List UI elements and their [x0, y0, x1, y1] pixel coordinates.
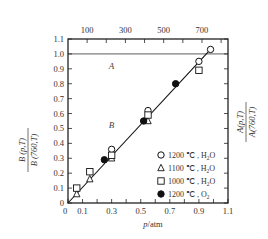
- y-tick-label: 1.1: [53, 34, 64, 44]
- legend-marker-open-square: [158, 178, 164, 184]
- y-tick-label: 0.9: [53, 64, 64, 74]
- legend: 1200 ℃ , H2O1100 ℃ , H2O1000 ℃ , H2O1200…: [158, 151, 216, 200]
- x-tick-label: 0.1: [77, 206, 88, 216]
- top-tick-label: 100: [81, 25, 94, 35]
- x-tick-label: 0.5: [135, 206, 146, 216]
- y-tick-label: 0.6: [53, 109, 64, 119]
- data-point-filled-circle: [140, 118, 146, 124]
- y-tick-label: 0.3: [53, 153, 64, 163]
- y-tick-label: 0.4: [53, 138, 64, 148]
- svg-text:B (760,T): B (760,T): [29, 134, 39, 167]
- x-tick-label: 0.7: [165, 206, 176, 216]
- region-label-a: A: [108, 61, 115, 71]
- data-point-open-square: [74, 185, 80, 191]
- data-point-open-circle: [207, 46, 213, 52]
- legend-entry: 1100 ℃ , H2O: [168, 164, 215, 174]
- top-tick-label: 300: [119, 25, 132, 35]
- data-point-filled-circle: [172, 81, 178, 87]
- y-tick-label: 1.0: [53, 49, 64, 59]
- legend-entry: 1000 ℃ , H2O: [168, 177, 216, 187]
- y-tick-label: 0.5: [53, 123, 64, 133]
- legend-marker-open-triangle: [158, 164, 164, 170]
- data-point-open-square: [145, 112, 151, 118]
- x-tick-label: 1.1: [223, 206, 234, 216]
- svg-text:A(p,T): A(p,T): [235, 111, 245, 134]
- x-tick-label: 0.9: [194, 206, 205, 216]
- chart-canvas: 00.10.20.30.40.50.60.70.80.91.01.100.10.…: [0, 0, 268, 239]
- top-tick-label: 700: [196, 25, 209, 35]
- legend-entry: 1200 ℃ , H2O: [168, 151, 216, 161]
- legend-entry: 1200 ℃ , O2: [168, 190, 210, 200]
- y-tick-label: 0.7: [53, 94, 64, 104]
- data-point-open-circle: [108, 146, 114, 152]
- legend-marker-filled-circle: [158, 191, 164, 197]
- x-axis-label: p/atm: [142, 219, 163, 229]
- y-tick-label: 0.2: [53, 168, 64, 178]
- x-tick-label: 0.3: [106, 206, 117, 216]
- left-y-axis-label: B (p,T)B (760,T): [17, 128, 39, 172]
- data-point-filled-circle: [101, 157, 107, 163]
- top-tick-label: 500: [157, 25, 170, 35]
- svg-text:A(760,T): A(760,T): [247, 107, 257, 139]
- legend-marker-open-circle: [158, 152, 164, 158]
- data-point-open-square: [87, 168, 93, 174]
- svg-text:B (p,T): B (p,T): [17, 138, 27, 162]
- data-point-open-square: [196, 67, 202, 73]
- x-tick-label: 0: [63, 206, 67, 216]
- data-point-open-square: [108, 152, 114, 158]
- right-y-axis-label: A(p,T)A(760,T): [235, 102, 257, 142]
- y-tick-label: 0.1: [53, 183, 64, 193]
- y-tick-label: 0.8: [53, 79, 64, 89]
- data-point-open-circle: [196, 58, 202, 64]
- region-label-b: B: [109, 120, 115, 130]
